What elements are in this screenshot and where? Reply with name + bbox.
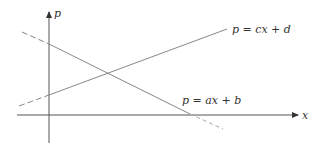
line-demand (22, 32, 223, 129)
x-axis-label: x (302, 109, 309, 122)
supply-line-label: p = cx + d (232, 23, 291, 36)
demand-line-label: p = ax + b (182, 94, 241, 107)
linear-functions-diagram: p x p = cx + d p = ax + b (0, 0, 321, 144)
y-axis-label: p (54, 7, 61, 20)
